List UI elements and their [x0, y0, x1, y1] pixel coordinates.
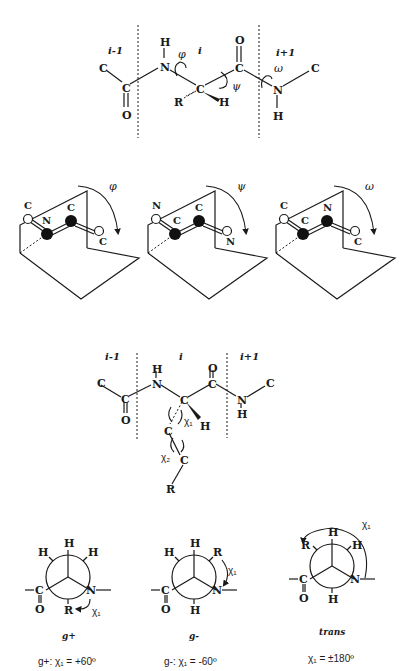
- conformer-name: g+: [62, 631, 76, 641]
- omega-rotation-arrow: [262, 76, 273, 88]
- backbone-diagram: i-1 i i+1 C C O N H C R H C O N H C: [99, 25, 320, 138]
- atom-h-n: H: [160, 36, 170, 49]
- atom-o-carbonyl: O: [235, 34, 245, 47]
- atom-label: N: [42, 215, 51, 226]
- atom-n-current: N: [152, 378, 162, 391]
- newman-top: H: [64, 537, 74, 550]
- sidechain-diagram: i-1 i i+1 C C O H N C H O C N H C C C R: [97, 351, 275, 496]
- conformer-name: trans: [319, 627, 345, 637]
- atom-h-n-next: H: [273, 110, 283, 123]
- newman-bottom: H: [328, 593, 338, 606]
- conformer-equation: g+: χ₁ = +60º: [38, 656, 96, 667]
- residue-label-prev: i-1: [108, 45, 123, 56]
- atom-c-right: C: [311, 62, 320, 75]
- chi1-label: χ₁: [92, 606, 101, 617]
- atom-c-gamma: C: [180, 454, 189, 467]
- atom-n-next: N: [237, 394, 247, 407]
- atom-label: C: [24, 200, 32, 211]
- conformer-name: g-: [189, 631, 199, 641]
- newman-front-left: C: [299, 573, 308, 586]
- residue-label-prev: i-1: [105, 351, 120, 362]
- newman-upper-left: H: [38, 546, 48, 559]
- atom-label: C: [280, 200, 288, 211]
- atom-h-alpha: H: [200, 420, 210, 433]
- residue-label-current: i: [179, 351, 183, 362]
- atom-c-left: C: [99, 62, 108, 75]
- atom-c-right: C: [266, 377, 275, 390]
- omega-label: ω: [365, 180, 374, 193]
- atom-label: C: [99, 236, 107, 247]
- conformer-equation: g-: χ₁ = -60º: [164, 656, 217, 667]
- atom-n-next: N: [273, 84, 283, 97]
- atom-label: C: [301, 215, 309, 226]
- atom-c-carbonyl: C: [208, 378, 217, 391]
- plane-panels: C N C C φ N C C N ψ: [20, 180, 395, 299]
- newman-upper-left: R: [301, 539, 311, 552]
- newman-top: H: [190, 537, 200, 550]
- atom-label: C: [67, 202, 75, 213]
- newman-front-right: N: [86, 584, 96, 597]
- conformer-equation: χ₁ = ±180º: [308, 653, 354, 664]
- atom-h-alpha: H: [219, 96, 229, 109]
- newman-front-right: N: [212, 584, 222, 597]
- atom-label: N: [152, 200, 161, 211]
- newman-upper-right: R: [213, 546, 223, 559]
- atom-label: C: [354, 236, 362, 247]
- newman-g-plus: H H H R C O N χ₁ g+ g+: χ₁ = +60º: [25, 537, 111, 667]
- chi1-label: χ₁: [228, 565, 237, 576]
- newman-upper-left: H: [164, 546, 174, 559]
- protein-torsion-figure: i-1 i i+1 C C O N H C R H C O N H C: [0, 0, 411, 671]
- phi-label: φ: [109, 180, 117, 193]
- chi1-label: χ₁: [184, 416, 193, 427]
- newman-trans: H R H H C O N χ₁ trans χ₁ = ±180º: [289, 519, 375, 664]
- newman-front-left: C: [161, 584, 170, 597]
- chi2-label: χ₂: [161, 452, 170, 463]
- atom-c-beta: C: [164, 425, 173, 438]
- newman-front-left-o: O: [299, 592, 309, 605]
- atom-label: C: [195, 202, 203, 213]
- atom-n-current: N: [160, 61, 170, 74]
- atom-c-alpha: C: [196, 83, 205, 96]
- atom-label: N: [323, 202, 332, 213]
- omega-label: ω: [274, 62, 283, 75]
- atom-r-group: R: [166, 483, 176, 496]
- atom-r-group: R: [174, 96, 184, 109]
- chi1-label: χ₁: [362, 519, 371, 530]
- atom-o-prev: O: [122, 109, 132, 122]
- newman-upper-right: H: [352, 539, 362, 552]
- psi-label: ψ: [237, 180, 246, 193]
- newman-front-left: C: [35, 584, 44, 597]
- atom-label: C: [173, 215, 181, 226]
- plane-panel-psi: N C C N ψ: [148, 180, 267, 299]
- chi1-rotation-arrow: [169, 407, 182, 424]
- newman-upper-right: H: [88, 546, 98, 559]
- phi-label: φ: [178, 48, 186, 61]
- newman-front-left-o: O: [35, 603, 45, 616]
- atom-h-n-next: H: [237, 408, 247, 421]
- newman-bottom: R: [64, 604, 74, 617]
- newman-g-minus: H H R H C O N χ₁ g- g-: χ₁ = -60º: [151, 537, 237, 667]
- plane-panel-omega: C C N C ω: [276, 180, 395, 299]
- atom-c-carbonyl: C: [235, 62, 244, 75]
- atom-o-carbonyl: O: [208, 362, 218, 375]
- newman-bottom: H: [190, 604, 200, 617]
- residue-label-next: i+1: [240, 351, 259, 362]
- residue-label-next: i+1: [276, 47, 295, 58]
- psi-label: ψ: [232, 80, 241, 93]
- atom-h-n: H: [152, 363, 162, 376]
- residue-label-current: i: [198, 45, 202, 56]
- atom-label: N: [226, 236, 235, 247]
- atom-c-left: C: [97, 377, 106, 390]
- atom-o-prev: O: [121, 414, 131, 427]
- newman-front-left-o: O: [161, 603, 171, 616]
- atom-c-alpha: C: [180, 394, 189, 407]
- plane-panel-phi: C N C C φ: [20, 180, 139, 299]
- newman-front-right: N: [350, 573, 360, 586]
- atom-c-carbonyl-prev: C: [122, 82, 131, 95]
- atom-c-carbonyl-prev: C: [121, 393, 130, 406]
